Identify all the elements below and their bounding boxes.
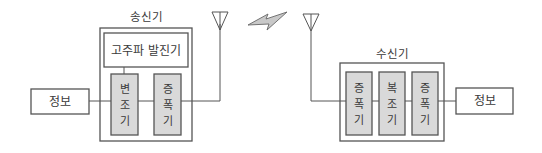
svg-text:기: 기	[163, 115, 173, 128]
svg-text:복: 복	[387, 82, 397, 95]
svg-text:폭: 폭	[420, 98, 430, 111]
antenna-icon	[303, 14, 319, 31]
modulator-block: 변 조 기	[111, 74, 138, 135]
info-source-label: 정보	[49, 95, 71, 109]
svg-text:폭: 폭	[163, 99, 173, 112]
svg-text:증: 증	[163, 83, 173, 96]
oscillator-block: 고주파 발진기	[104, 33, 188, 67]
info-source-block: 정보	[31, 89, 89, 114]
svg-text:기: 기	[387, 114, 397, 127]
receiver-block: 수신기 증 폭 기 복 조 기 증 폭 기	[340, 47, 444, 141]
info-destination-block: 정보	[456, 88, 513, 114]
demodulator-block: 복 조 기	[379, 72, 405, 135]
lightning-bolt-icon	[248, 12, 287, 30]
receiver-label: 수신기	[376, 47, 409, 61]
svg-text:증: 증	[420, 82, 430, 95]
tx-amplifier-block: 증 폭 기	[154, 74, 181, 135]
svg-text:변: 변	[120, 83, 130, 96]
svg-text:기: 기	[420, 114, 430, 127]
svg-text:증: 증	[354, 82, 364, 95]
transmitter-label: 송신기	[130, 10, 163, 24]
transmitter-receiver-diagram: 정보 송신기 고주파 발진기 변 조 기 증 폭 기	[0, 0, 542, 153]
oscillator-label: 고주파 발진기	[111, 44, 181, 58]
svg-text:조: 조	[120, 99, 130, 112]
svg-text:기: 기	[120, 115, 130, 128]
transmitter-block: 송신기 고주파 발진기 변 조 기 증 폭 기	[100, 10, 192, 141]
svg-text:기: 기	[354, 114, 364, 127]
svg-text:폭: 폭	[354, 98, 364, 111]
rx-amplifier-block-1: 증 폭 기	[346, 72, 372, 135]
svg-text:조: 조	[387, 98, 397, 111]
rx-amplifier-block-2: 증 폭 기	[412, 72, 438, 135]
info-destination-label: 정보	[474, 94, 496, 108]
antenna-icon	[212, 12, 228, 30]
